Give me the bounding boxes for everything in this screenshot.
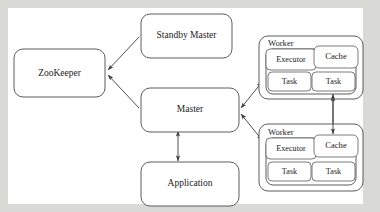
worker-top-label: Worker xyxy=(268,38,294,48)
edge-master-to-zookeeper xyxy=(108,75,139,108)
node-standby-master[interactable]: Standby Master xyxy=(141,14,232,58)
diagram-root: ZooKeeper Standby Master Master Applicat… xyxy=(0,0,380,212)
architecture-diagram: ZooKeeper Standby Master Master Applicat… xyxy=(0,0,380,212)
worker-top-task-right-label: Task xyxy=(326,77,342,86)
worker-top-task-left-label: Task xyxy=(282,77,298,86)
edge-standby-master-to-zookeeper xyxy=(108,37,139,70)
worker-bottom-label: Worker xyxy=(268,127,294,137)
standby-master-label: Standby Master xyxy=(157,30,218,40)
worker-bottom-task-right-label: Task xyxy=(326,167,342,176)
application-label: Application xyxy=(168,178,213,188)
zookeeper-label: ZooKeeper xyxy=(38,68,82,78)
node-application[interactable]: Application xyxy=(141,162,239,206)
worker-top-cache-label: Cache xyxy=(325,51,347,61)
worker-bottom-executor-label: Executor xyxy=(276,144,306,153)
master-label: Master xyxy=(177,104,204,114)
worker-bottom-cache-label: Cache xyxy=(325,140,347,150)
node-zookeeper[interactable]: ZooKeeper xyxy=(14,49,105,97)
worker-top-executor-label: Executor xyxy=(276,55,306,64)
worker-bottom-task-left-label: Task xyxy=(282,167,298,176)
node-worker-bottom[interactable]: Worker Executor Cache Task Task xyxy=(259,124,363,191)
node-master[interactable]: Master xyxy=(141,88,239,132)
node-worker-top[interactable]: Worker Executor Cache Task Task xyxy=(259,36,363,99)
